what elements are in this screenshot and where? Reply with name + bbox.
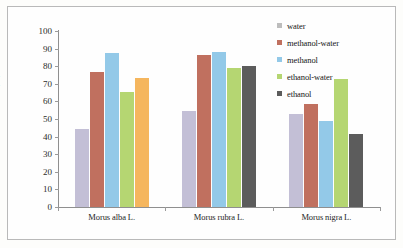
legend-swatch-icon — [277, 57, 282, 62]
y-axis-tick-label: 70 — [6, 79, 52, 88]
x-axis-tick-mark — [273, 207, 274, 211]
y-axis-tick-mark — [55, 154, 59, 155]
bar-ethanol — [349, 134, 363, 207]
bar-methanol-water — [304, 104, 318, 207]
y-axis-tick-label: 50 — [6, 115, 52, 124]
y-axis-tick-label: 30 — [6, 150, 52, 159]
y-axis-tick-label: 90 — [6, 44, 52, 53]
bar-water — [289, 114, 303, 207]
legend-item: methanol-water — [277, 34, 389, 51]
x-axis-line — [58, 207, 380, 208]
legend-item: water — [277, 17, 389, 34]
legend-swatch-icon — [277, 91, 282, 96]
y-axis-tick-label: 80 — [6, 62, 52, 71]
chart-legend: watermethanol-watermethanolethanol-water… — [277, 17, 389, 102]
x-axis-tick-mark — [58, 207, 59, 211]
legend-item-label: water — [287, 21, 305, 31]
y-axis-tick-mark — [55, 172, 59, 173]
bar-methanol-water — [90, 72, 104, 207]
bar-water — [182, 111, 196, 207]
x-axis-category-label: Morus alba L. — [58, 212, 165, 222]
legend-item: ethanol-water — [277, 68, 389, 85]
legend-item: methanol — [277, 51, 389, 68]
y-axis-tick-mark — [55, 31, 59, 32]
y-axis-tick-label: 20 — [6, 167, 52, 176]
y-axis-tick-label: 0 — [6, 203, 52, 212]
x-axis-tick-mark — [380, 207, 381, 211]
y-axis-tick-label: 10 — [6, 185, 52, 194]
y-axis-tick-label: 100 — [6, 27, 52, 36]
legend-swatch-icon — [277, 74, 282, 79]
legend-item-label: ethanol — [287, 89, 311, 99]
y-axis-tick-labels: 1009080706050403020100 — [0, 31, 52, 207]
y-axis-tick-mark — [55, 101, 59, 102]
bar-group — [58, 31, 165, 207]
legend-swatch-icon — [277, 40, 282, 45]
legend-item-label: methanol-water — [287, 38, 339, 48]
y-axis-tick-label: 60 — [6, 97, 52, 106]
bar-methanol — [212, 52, 226, 207]
legend-item: ethanol — [277, 85, 389, 102]
bar-methanol — [105, 53, 119, 207]
bar-ethanol-water — [227, 68, 241, 207]
bar-ethanol-water — [120, 92, 134, 207]
x-axis-category-label: Morus nigra L. — [273, 212, 380, 222]
y-axis-tick-mark — [55, 49, 59, 50]
bar-water — [75, 129, 89, 207]
y-axis-tick-mark — [55, 189, 59, 190]
y-axis-tick-mark — [55, 119, 59, 120]
bar-methanol-water — [197, 55, 211, 207]
bar-ethanol — [242, 66, 256, 208]
x-axis-category-labels: Morus alba L.Morus rubra L.Morus nigra L… — [58, 212, 380, 222]
bar-ethanol — [135, 78, 149, 207]
legend-swatch-icon — [277, 23, 282, 28]
chart-figure: RSC (%) 1009080706050403020100 Morus alb… — [0, 0, 403, 248]
x-axis-category-label: Morus rubra L. — [165, 212, 272, 222]
legend-item-label: methanol — [287, 55, 318, 65]
y-axis-tick-mark — [55, 137, 59, 138]
y-axis-tick-label: 40 — [6, 132, 52, 141]
bar-group — [165, 31, 272, 207]
y-axis-tick-mark — [55, 84, 59, 85]
legend-item-label: ethanol-water — [287, 72, 332, 82]
y-axis-tick-mark — [55, 66, 59, 67]
x-axis-tick-mark — [165, 207, 166, 211]
bar-methanol — [319, 121, 333, 207]
